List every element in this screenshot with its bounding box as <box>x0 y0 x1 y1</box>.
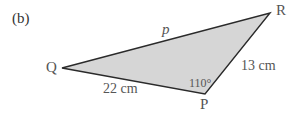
vertex-label-r: R <box>276 3 286 18</box>
triangle-figure: (b) Q R P 22 cm 13 cm p 110° <box>0 0 298 115</box>
part-label: (b) <box>12 11 30 26</box>
vertex-label-p: P <box>200 97 208 112</box>
side-length-qp: 22 cm <box>103 82 138 96</box>
vertex-label-q: Q <box>46 60 57 75</box>
side-label-qr: p <box>162 22 170 37</box>
angle-label-p: 110° <box>189 77 211 89</box>
side-length-pr: 13 cm <box>241 59 276 73</box>
